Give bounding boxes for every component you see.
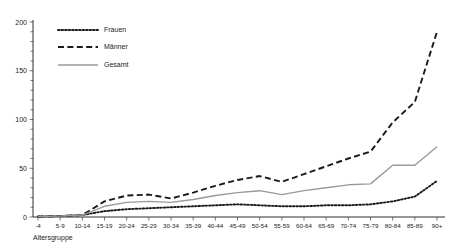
- y-tick-label: 100: [15, 116, 27, 123]
- y-tick-label: 200: [15, 19, 27, 26]
- x-tick-label: 90+: [432, 222, 443, 229]
- y-axis-ticks: [30, 22, 34, 217]
- line-chart: 050100150200 -45-910-1415-1920-2425-2930…: [0, 0, 451, 249]
- legend-label-gesamt: Gesamt: [104, 61, 129, 68]
- x-tick-label: 80-84: [385, 222, 401, 229]
- y-tick-label: 0: [23, 214, 27, 221]
- x-tick-label: 55-59: [274, 222, 290, 229]
- x-tick-label: 70-74: [340, 222, 356, 229]
- data-series-group: [38, 32, 437, 217]
- series-line-männer: [38, 32, 437, 217]
- x-tick-label: 75-79: [363, 222, 379, 229]
- x-tick-label: 35-39: [185, 222, 201, 229]
- x-tick-label: 30-34: [163, 222, 179, 229]
- x-axis-title: Altersgruppe: [33, 234, 73, 242]
- x-tick-label: -4: [35, 222, 41, 229]
- y-tick-label: 150: [15, 67, 27, 74]
- x-tick-label: 5-9: [56, 222, 66, 229]
- x-tick-label: 25-29: [141, 222, 157, 229]
- x-axis-tick-labels: -45-910-1415-1920-2425-2930-3435-3940-44…: [35, 222, 442, 229]
- x-tick-label: 40-44: [207, 222, 223, 229]
- y-axis-labels: 050100150200: [15, 19, 27, 221]
- x-tick-label: 60-64: [296, 222, 312, 229]
- chart-legend: FrauenMännerGesamt: [58, 26, 129, 68]
- legend-label-frauen: Frauen: [104, 26, 126, 33]
- y-tick-label: 50: [19, 165, 27, 172]
- x-tick-label: 50-54: [252, 222, 268, 229]
- x-tick-label: 20-24: [119, 222, 135, 229]
- x-tick-label: 10-14: [74, 222, 90, 229]
- chart-container: 050100150200 -45-910-1415-1920-2425-2930…: [0, 0, 451, 249]
- series-line-frauen: [38, 181, 437, 217]
- x-tick-label: 45-49: [230, 222, 246, 229]
- legend-label-männer: Männer: [104, 43, 128, 50]
- x-axis-ticks: [38, 217, 437, 221]
- x-tick-label: 85-89: [407, 222, 423, 229]
- x-tick-label: 15-19: [97, 222, 113, 229]
- x-tick-label: 65-69: [318, 222, 334, 229]
